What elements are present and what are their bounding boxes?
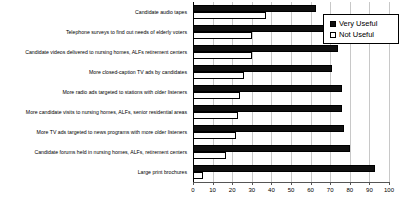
x-tick-label: 60 — [307, 187, 314, 193]
x-tick-label: 20 — [229, 187, 236, 193]
x-tick — [389, 182, 390, 185]
category-label: Candidate forums held in nursing homes, … — [34, 149, 187, 155]
category-axis-labels: Candidate audio tapesTelephone surveys t… — [0, 0, 190, 182]
x-tick-label: 80 — [346, 187, 353, 193]
x-tick-label: 100 — [384, 187, 394, 193]
x-tick — [291, 182, 292, 185]
value-axis-line — [193, 2, 194, 182]
x-tick — [213, 182, 214, 185]
bar-very-useful — [193, 65, 332, 72]
bar-not-useful — [193, 152, 226, 159]
legend-item-very-useful: Very Useful — [330, 18, 394, 29]
bar-not-useful — [193, 132, 236, 139]
x-tick-label: 30 — [248, 187, 255, 193]
x-tick-label: 0 — [191, 187, 194, 193]
x-tick-label: 40 — [268, 187, 275, 193]
category-label: Telephone surveys to find out needs of e… — [66, 29, 187, 35]
category-label: More TV ads targeted to news programs wi… — [37, 129, 187, 135]
x-tick — [311, 182, 312, 185]
x-axis: 0102030405060708090100 — [193, 182, 389, 183]
x-tick-label: 70 — [327, 187, 334, 193]
x-tick — [193, 182, 194, 185]
bar-group — [193, 162, 389, 182]
bar-group — [193, 82, 389, 102]
legend: Very Useful Not Useful — [323, 14, 399, 44]
category-label: More radio ads targeted to stations with… — [62, 89, 187, 95]
x-tick-label: 50 — [288, 187, 295, 193]
x-tick — [350, 182, 351, 185]
bar-group — [193, 122, 389, 142]
bar-not-useful — [193, 112, 238, 119]
bar-not-useful — [193, 12, 266, 19]
bar-group — [193, 102, 389, 122]
legend-swatch-very-useful-icon — [330, 21, 336, 27]
category-label: More closed-caption TV ads by candidates — [89, 69, 187, 75]
bar-not-useful — [193, 52, 252, 59]
legend-item-not-useful: Not Useful — [330, 29, 394, 40]
x-tick — [252, 182, 253, 185]
bar-group — [193, 42, 389, 62]
x-tick — [232, 182, 233, 185]
category-label: More candidate visits to nursing homes, … — [26, 109, 187, 115]
bar-group — [193, 62, 389, 82]
bar-not-useful — [193, 92, 240, 99]
bar-very-useful — [193, 5, 316, 12]
x-tick-label: 10 — [209, 187, 216, 193]
bar-very-useful — [193, 165, 375, 172]
x-tick — [271, 182, 272, 185]
bar-very-useful — [193, 145, 350, 152]
legend-label-not-useful: Not Useful — [339, 30, 374, 39]
x-tick — [369, 182, 370, 185]
legend-swatch-not-useful-icon — [330, 32, 336, 38]
bar-very-useful — [193, 125, 344, 132]
bar-not-useful — [193, 172, 203, 179]
bar-chart: Candidate audio tapesTelephone surveys t… — [0, 0, 406, 204]
bar-very-useful — [193, 25, 338, 32]
bar-not-useful — [193, 32, 252, 39]
bar-not-useful — [193, 72, 244, 79]
bar-very-useful — [193, 85, 342, 92]
category-label: Large print brochures — [138, 169, 187, 175]
legend-label-very-useful: Very Useful — [339, 19, 377, 28]
category-label: Candidate audio tapes — [135, 9, 187, 15]
bar-very-useful — [193, 105, 342, 112]
bar-group — [193, 142, 389, 162]
x-tick-label: 90 — [366, 187, 373, 193]
bar-very-useful — [193, 45, 338, 52]
x-tick — [330, 182, 331, 185]
category-label: Candidate videos delivered to nursing ho… — [25, 49, 187, 55]
